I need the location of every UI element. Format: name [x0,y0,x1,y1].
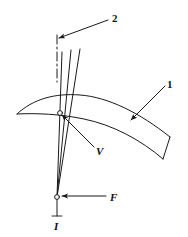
label-velocity: V [96,146,103,157]
band-lower-edge [17,114,163,159]
label-force: F [110,192,117,203]
band-right-end-cap [163,137,170,159]
ray-bundle [57,49,80,197]
leader-line-part-two [59,20,108,38]
label-current: I [54,221,58,232]
band-upper-edge [17,95,170,137]
leader-line-part-one [131,86,165,120]
figure-root: 2 1 V F I [0,0,188,237]
apex-node [55,195,60,200]
label-part-one: 1 [167,79,173,90]
figure-drawing-canvas [0,0,188,237]
band-intersection-node [58,111,63,116]
label-part-two: 2 [112,13,118,24]
